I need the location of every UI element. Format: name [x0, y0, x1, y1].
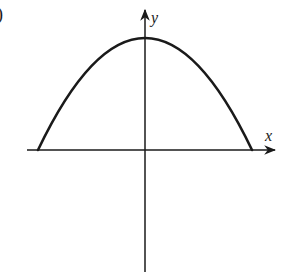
x-axis-label: x: [264, 127, 272, 144]
figure-label-fragment: ): [0, 4, 3, 25]
y-axis-label: y: [149, 9, 159, 27]
parabola-graph: ) x y: [0, 0, 288, 272]
